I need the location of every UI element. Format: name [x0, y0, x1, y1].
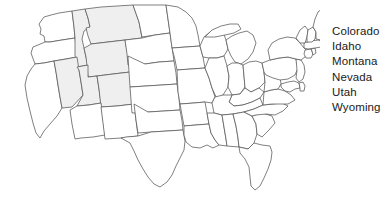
map-states-group [25, 5, 320, 190]
legend-item-idaho: Idaho [332, 39, 388, 54]
legend-item-wyoming: Wyoming [332, 100, 388, 115]
state-WA[interactable] [39, 11, 75, 42]
state-VT[interactable] [296, 26, 308, 43]
legend-item-colorado: Colorado [332, 24, 388, 39]
legend-item-montana: Montana [332, 54, 388, 69]
state-CO[interactable] [97, 72, 134, 107]
state-IA[interactable] [172, 46, 205, 70]
state-AZ[interactable] [70, 103, 105, 139]
state-OH[interactable] [243, 61, 265, 92]
legend-item-utah: Utah [332, 85, 388, 100]
legend-item-nevada: Nevada [332, 70, 388, 85]
page-root: Colorado Idaho Montana Nevada Utah Wyomi… [0, 0, 388, 200]
united-states-map-svg[interactable] [0, 0, 320, 200]
state-MN[interactable] [166, 5, 200, 48]
state-IN[interactable] [227, 63, 245, 95]
highlighted-states-legend: Colorado Idaho Montana Nevada Utah Wyomi… [332, 24, 388, 115]
state-DE[interactable] [299, 82, 305, 91]
state-NJ[interactable] [296, 59, 305, 82]
state-MT[interactable] [85, 5, 142, 44]
state-FL[interactable] [239, 143, 272, 190]
state-AR[interactable] [180, 102, 209, 126]
state-MD[interactable] [281, 81, 300, 92]
state-TX[interactable] [121, 130, 185, 187]
state-WY[interactable] [84, 40, 130, 77]
map-panel [0, 0, 320, 200]
